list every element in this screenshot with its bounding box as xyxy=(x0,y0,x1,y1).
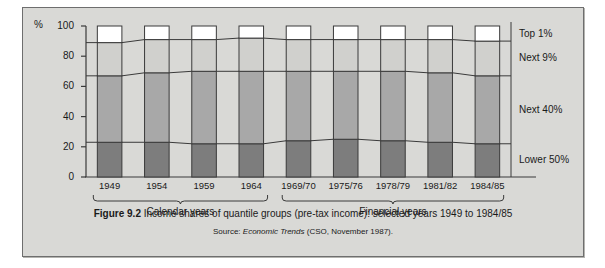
stacked-bars xyxy=(97,26,499,177)
bar-segment xyxy=(239,38,264,71)
y-axis-tick-label: 20 xyxy=(48,141,74,152)
y-axis-tick-label: 60 xyxy=(48,80,74,91)
bar-segment xyxy=(192,40,217,72)
bar-segment xyxy=(428,73,453,142)
bar-segment xyxy=(97,142,122,177)
bar-segment xyxy=(428,142,453,177)
bar-segment xyxy=(239,26,264,38)
x-axis-tick-label: 1981/82 xyxy=(414,180,466,191)
bar-segment xyxy=(239,144,264,177)
bar-segment xyxy=(381,141,406,177)
bar-segment xyxy=(333,139,358,177)
bar-segment xyxy=(428,40,453,73)
bar-segment xyxy=(475,76,500,144)
chart-plate: % 020406080100 19491954195919641969/7019… xyxy=(22,7,584,257)
group-bracket xyxy=(282,195,503,204)
plot-area: % 020406080100 19491954195919641969/7019… xyxy=(23,8,583,256)
group-bracket xyxy=(93,195,267,204)
bar-segment xyxy=(97,26,122,43)
x-axis-tick-label: 1969/70 xyxy=(273,180,325,191)
legend-entry: Top 1% xyxy=(519,28,552,39)
legend-entry: Next 9% xyxy=(519,52,557,63)
bar-segment xyxy=(475,144,500,177)
x-axis-tick-label: 1954 xyxy=(131,180,183,191)
x-axis-tick-label: 1984/85 xyxy=(461,180,513,191)
bar-segment xyxy=(286,141,311,177)
legend-entry: Next 40% xyxy=(519,104,562,115)
bar-segment xyxy=(145,73,170,142)
bar-segment xyxy=(475,26,500,41)
x-axis-tick-label: 1975/76 xyxy=(320,180,372,191)
bar-segment xyxy=(381,40,406,72)
legend-entry: Lower 50% xyxy=(519,154,569,165)
y-axis-ticks xyxy=(81,26,86,177)
bar-segment xyxy=(145,40,170,73)
group-brackets xyxy=(93,195,503,204)
bar-segment xyxy=(381,71,406,140)
figure-container: % 020406080100 19491954195919641969/7019… xyxy=(0,0,605,268)
bar-segment xyxy=(97,76,122,142)
y-axis-tick-label: 0 xyxy=(48,171,74,182)
bar-segment xyxy=(145,142,170,177)
source-publication: Economic Trends xyxy=(243,227,305,236)
bar-segment xyxy=(333,26,358,40)
bar-segment xyxy=(475,41,500,76)
figure-caption-text: Income shares of quantile groups (pre-ta… xyxy=(144,208,513,219)
source-detail: (CSO, November 1987). xyxy=(307,227,393,236)
figure-number: Figure 9.2 xyxy=(94,208,141,219)
y-axis-tick-label: 100 xyxy=(48,20,74,31)
x-axis-tick-label: 1959 xyxy=(178,180,230,191)
bar-segment xyxy=(239,71,264,143)
bar-segment xyxy=(97,43,122,76)
bar-segment xyxy=(192,26,217,40)
bar-segment xyxy=(286,40,311,72)
x-axis-tick-label: 1949 xyxy=(84,180,136,191)
bar-segment xyxy=(333,71,358,139)
figure-caption: Figure 9.2 Income shares of quantile gro… xyxy=(23,208,583,219)
bar-segment xyxy=(286,71,311,140)
figure-source: Source: Economic Trends (CSO, November 1… xyxy=(23,227,583,236)
x-axis-tick-label: 1964 xyxy=(225,180,277,191)
bar-segment xyxy=(192,71,217,143)
bar-segment xyxy=(381,26,406,40)
y-axis-tick-label: 80 xyxy=(48,50,74,61)
bar-segment xyxy=(333,40,358,72)
bar-segment xyxy=(286,26,311,40)
source-prefix: Source: xyxy=(213,227,241,236)
bar-segment xyxy=(145,26,170,40)
bar-segment xyxy=(192,144,217,177)
x-axis-tick-label: 1978/79 xyxy=(367,180,419,191)
bar-segment xyxy=(428,26,453,40)
y-axis-tick-label: 40 xyxy=(48,111,74,122)
